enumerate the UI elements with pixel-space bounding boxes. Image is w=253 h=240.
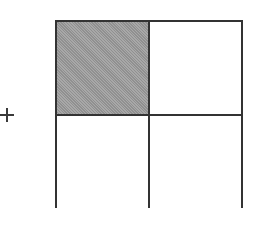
empty-cell — [55, 114, 150, 208]
empty-cell — [148, 114, 243, 208]
plus-vertical-stroke — [6, 108, 8, 122]
empty-cell — [148, 20, 243, 116]
plus-icon — [0, 108, 14, 122]
shaded-cell — [55, 20, 150, 116]
